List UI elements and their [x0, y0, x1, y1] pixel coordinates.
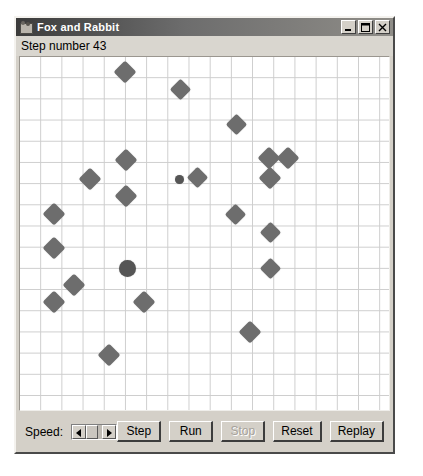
rabbit-actor: [43, 237, 66, 260]
rabbit-actor: [224, 203, 245, 224]
scroll-right-button[interactable]: [102, 425, 116, 439]
close-button[interactable]: [375, 20, 390, 34]
fox-actor: [119, 260, 136, 277]
application-icon: [19, 20, 33, 34]
rabbit-actor: [186, 166, 207, 187]
rabbit-actor: [43, 203, 66, 226]
simulation-panel[interactable]: [19, 56, 390, 411]
rabbit-actor: [259, 167, 282, 190]
window-title: Fox and Rabbit: [37, 18, 119, 36]
status-bar: Step number 43: [16, 36, 393, 56]
speed-slider[interactable]: [71, 424, 117, 440]
rabbit-actor: [239, 321, 262, 344]
scroll-left-button[interactable]: [72, 425, 86, 439]
speed-slider-track[interactable]: [86, 425, 102, 439]
simulation-grid[interactable]: [20, 57, 389, 410]
rabbit-actor: [225, 113, 246, 134]
minimize-button[interactable]: [341, 20, 356, 34]
rabbit-actor: [259, 221, 280, 242]
rabbit-actor: [79, 168, 102, 191]
maximize-button[interactable]: [358, 20, 373, 34]
rabbit-actor: [63, 274, 86, 297]
fox-actor: [175, 175, 184, 184]
rabbit-actor: [43, 291, 66, 314]
scroll-left-icon: [76, 429, 82, 437]
replay-button[interactable]: Replay: [330, 421, 384, 442]
rabbit-actor: [169, 78, 190, 99]
window-controls: [341, 20, 392, 34]
speed-label: Speed:: [25, 425, 63, 439]
maximize-icon: [361, 23, 370, 32]
close-icon: [378, 23, 387, 32]
scroll-right-icon: [106, 429, 112, 437]
rabbit-actor: [114, 61, 137, 84]
stop-button: Stop: [221, 421, 265, 442]
minimize-icon: [344, 23, 353, 32]
rabbit-actor: [98, 344, 121, 367]
rabbit-actor: [115, 185, 138, 208]
action-button-group: StepRunStopResetReplay: [117, 421, 384, 442]
step-button[interactable]: Step: [117, 421, 161, 442]
rabbit-actor: [259, 257, 280, 278]
title-bar: Fox and Rabbit: [16, 18, 393, 36]
step-counter-label: Step number 43: [21, 39, 106, 53]
rabbit-actor: [115, 149, 138, 172]
application-window: Fox and Rabbit Step number 43: [14, 16, 395, 454]
speed-slider-thumb[interactable]: [86, 425, 98, 439]
rabbit-actor: [133, 291, 156, 314]
run-button[interactable]: Run: [169, 421, 213, 442]
rabbit-actor: [277, 147, 300, 170]
control-bar: Speed: StepRunStopResetReplay: [19, 414, 390, 449]
reset-button[interactable]: Reset: [273, 421, 321, 442]
